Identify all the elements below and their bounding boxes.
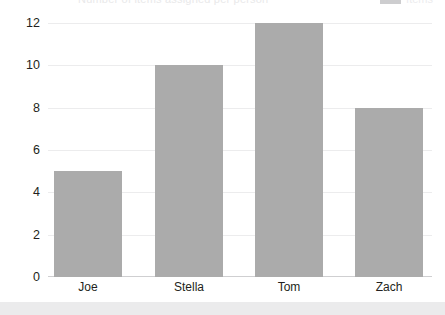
y-axis-tick-label: 0	[0, 271, 40, 284]
bar-tom[interactable]	[255, 23, 323, 277]
y-axis-tick-label: 8	[0, 101, 40, 114]
bar-zach[interactable]	[355, 108, 423, 277]
gridline	[48, 23, 432, 24]
bar-stella[interactable]	[155, 65, 223, 277]
x-axis-label-tom: Tom	[278, 281, 301, 293]
y-axis: 12 10 8 6 4 2 0	[0, 23, 40, 277]
y-axis-tick-label: 4	[0, 186, 40, 199]
x-axis-label-zach: Zach	[376, 281, 403, 293]
chart-title: Number of items assigned per person	[78, 0, 268, 5]
gridline	[48, 65, 432, 66]
legend-label-items: Items	[406, 0, 433, 5]
bar-joe[interactable]	[54, 171, 122, 277]
chart-legend: Items	[380, 0, 433, 5]
x-axis: Joe Stella Tom Zach	[48, 281, 432, 301]
y-axis-tick-label: 10	[0, 59, 40, 72]
x-axis-label-joe: Joe	[78, 281, 97, 293]
bottom-band	[0, 302, 445, 315]
plot-area	[48, 23, 432, 277]
bar-chart: 12 10 8 6 4 2 0 Joe Stella Tom Zach	[0, 9, 445, 302]
y-axis-tick-label: 12	[0, 17, 40, 30]
y-axis-tick-label: 6	[0, 144, 40, 157]
chart-header-strip: Number of items assigned per person Item…	[0, 0, 445, 9]
y-axis-tick-label: 2	[0, 228, 40, 241]
x-axis-label-stella: Stella	[174, 281, 204, 293]
legend-swatch-items	[380, 0, 401, 4]
